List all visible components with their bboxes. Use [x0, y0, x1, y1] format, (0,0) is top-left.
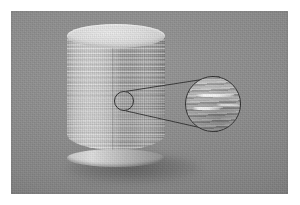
cylinder-side-wall: [67, 35, 165, 150]
magnifier-detail-circle: [185, 76, 241, 132]
magnifier-shading: [186, 77, 240, 131]
film-grain-top: [68, 25, 164, 47]
film-grain-body: [67, 35, 165, 150]
cylinder-top-face: [67, 24, 165, 48]
figure-root: [0, 0, 300, 205]
callout-source-circle: [114, 91, 134, 111]
photograph-plate: [11, 11, 288, 194]
cylinder-bottom-edge: [67, 149, 165, 167]
3d-printed-cylinder: [67, 24, 165, 161]
